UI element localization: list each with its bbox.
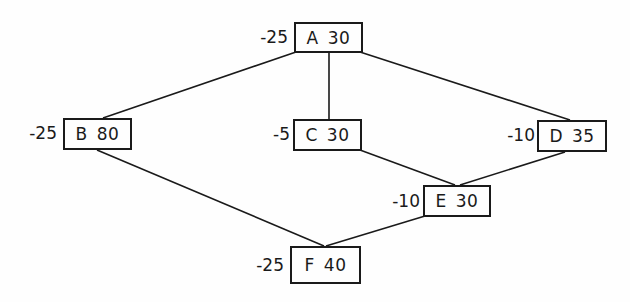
node-c[interactable]: C 30 xyxy=(293,119,362,151)
node-c-label: C xyxy=(305,125,317,145)
node-a[interactable]: A 30 xyxy=(294,22,363,53)
node-a-weight: -25 xyxy=(248,27,288,47)
node-d[interactable]: D 35 xyxy=(537,120,607,152)
node-b-value: 80 xyxy=(97,124,120,144)
edge-e-f xyxy=(326,216,425,246)
edge-c-e xyxy=(360,150,455,185)
node-b[interactable]: B 80 xyxy=(63,118,132,150)
edge-b-f xyxy=(97,150,324,246)
node-e-value: 30 xyxy=(456,191,479,211)
node-d-value: 35 xyxy=(572,126,595,146)
node-c-weight: -5 xyxy=(250,124,290,144)
node-e-weight: -10 xyxy=(380,191,420,211)
node-b-label: B xyxy=(76,124,88,144)
node-d-weight: -10 xyxy=(495,125,535,145)
node-f-value: 40 xyxy=(324,255,347,275)
edge-d-e xyxy=(460,152,565,185)
node-c-value: 30 xyxy=(327,125,350,145)
node-f[interactable]: F 40 xyxy=(290,246,361,284)
node-a-value: 30 xyxy=(328,28,351,48)
node-f-label: F xyxy=(305,255,315,275)
node-b-weight: -25 xyxy=(17,123,57,143)
edge-a-d xyxy=(360,52,570,120)
edge-a-b xyxy=(103,52,296,118)
node-e-label: E xyxy=(436,191,447,211)
node-f-weight: -25 xyxy=(244,255,284,275)
node-a-label: A xyxy=(307,28,319,48)
node-d-label: D xyxy=(549,126,563,146)
node-e[interactable]: E 30 xyxy=(423,185,491,217)
